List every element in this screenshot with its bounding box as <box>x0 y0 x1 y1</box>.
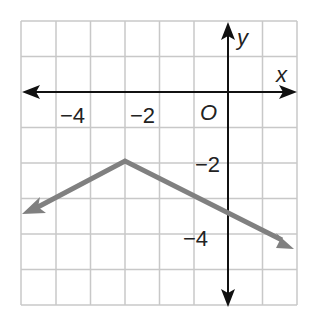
y-tick-label-neg4: −4 <box>183 226 208 251</box>
coordinate-plane: y x O −4 −2 −2 −4 <box>0 0 319 325</box>
x-tick-label-neg2: −2 <box>130 103 155 128</box>
graph-line <box>22 161 294 249</box>
y-axis-label: y <box>235 25 250 50</box>
x-axis-label: x <box>275 62 288 87</box>
x-tick-label-neg4: −4 <box>60 103 85 128</box>
y-axis <box>221 22 235 307</box>
y-tick-label-neg2: −2 <box>195 152 220 177</box>
origin-label: O <box>200 100 217 125</box>
grid <box>21 21 297 305</box>
